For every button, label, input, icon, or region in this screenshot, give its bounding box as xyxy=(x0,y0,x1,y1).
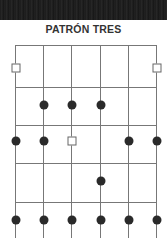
fret-line xyxy=(15,125,156,126)
diagram-title: PATRÓN TRES xyxy=(0,23,167,35)
root-square xyxy=(67,137,76,146)
note-dot xyxy=(96,101,105,110)
note-dot xyxy=(96,177,105,186)
note-dot xyxy=(11,137,20,146)
root-square xyxy=(152,64,161,73)
fret-line xyxy=(15,87,156,88)
note-dot xyxy=(152,216,161,225)
note-dot xyxy=(39,101,48,110)
note-dot xyxy=(67,101,76,110)
note-dot xyxy=(96,216,105,225)
fret-line xyxy=(15,202,156,203)
top-band xyxy=(0,0,167,20)
note-dot xyxy=(39,137,48,146)
note-dot xyxy=(39,216,48,225)
note-dot xyxy=(67,216,76,225)
root-square xyxy=(11,64,20,73)
fret-line xyxy=(15,45,156,46)
fret-line xyxy=(15,163,156,164)
note-dot xyxy=(124,137,133,146)
note-dot xyxy=(124,216,133,225)
string-line xyxy=(100,45,101,238)
note-dot xyxy=(152,137,161,146)
note-dot xyxy=(11,216,20,225)
